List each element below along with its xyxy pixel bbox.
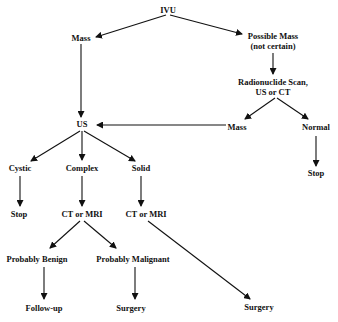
node-radionuclide-scan: Radionuclide Scan, US or CT	[238, 77, 308, 97]
node-stop-left: Stop	[11, 209, 28, 219]
edge-us-solid	[84, 131, 135, 161]
node-ct-mri-solid: CT or MRI	[125, 209, 166, 219]
node-label: Stop	[11, 209, 28, 219]
edge-ct-malignant	[84, 221, 116, 248]
node-label: US	[77, 119, 88, 129]
node-label: Probably Benign	[6, 254, 67, 264]
node-possible-mass: Possible Mass (not certain)	[248, 31, 298, 51]
node-label: Normal	[302, 122, 330, 132]
node-label: Stop	[308, 168, 325, 178]
node-label-line2: (not certain)	[248, 41, 298, 51]
node-label: Cystic	[9, 163, 32, 173]
node-cystic: Cystic	[9, 163, 32, 173]
node-label: Mass	[228, 122, 247, 132]
node-label-line1: Radionuclide Scan,	[238, 77, 308, 87]
node-solid: Solid	[132, 163, 150, 173]
node-probably-benign: Probably Benign	[6, 254, 67, 264]
node-surgery-solid: Surgery	[244, 302, 273, 312]
edge-radionuclide-mass	[245, 98, 275, 119]
node-label: IVU	[160, 5, 176, 15]
node-label-line2: US or CT	[238, 87, 308, 97]
node-label: Mass	[72, 33, 91, 43]
edge-ivu-possible-mass	[170, 15, 242, 34]
node-ivu: IVU	[160, 5, 176, 15]
node-label: Complex	[66, 163, 99, 173]
node-label: CT or MRI	[61, 209, 102, 219]
node-label: Solid	[132, 163, 150, 173]
node-label: CT or MRI	[125, 209, 166, 219]
edge-ivu-mass	[96, 15, 166, 37]
node-normal: Normal	[302, 122, 330, 132]
flowchart-canvas: IVU Mass Possible Mass (not certain) Rad…	[0, 0, 338, 322]
node-complex: Complex	[66, 163, 99, 173]
node-label: Surgery	[244, 302, 273, 312]
node-ct-mri-complex: CT or MRI	[61, 209, 102, 219]
node-stop-right: Stop	[308, 168, 325, 178]
node-label: Follow-up	[26, 303, 63, 313]
node-label: Surgery	[116, 303, 145, 313]
node-surgery-malignant: Surgery	[116, 303, 145, 313]
edge-us-cystic	[31, 131, 80, 161]
edge-radionuclide-normal	[277, 98, 308, 119]
node-label-line1: Possible Mass	[248, 31, 298, 41]
node-mass-right: Mass	[228, 122, 247, 132]
node-mass-left: Mass	[72, 33, 91, 43]
node-follow-up: Follow-up	[26, 303, 63, 313]
node-probably-malignant: Probably Malignant	[96, 254, 169, 264]
node-us: US	[77, 119, 88, 129]
node-label: Probably Malignant	[96, 254, 169, 264]
edge-ct-benign	[50, 221, 80, 248]
